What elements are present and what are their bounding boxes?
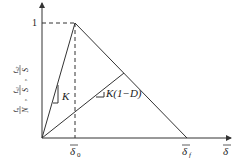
svg-text:,: ,	[19, 99, 28, 101]
svg-text:0: 0	[77, 151, 81, 159]
svg-text:S: S	[21, 88, 30, 92]
svg-text:S: S	[21, 68, 30, 72]
slope-label-k: K	[61, 90, 70, 102]
x-tick-delta0: δ 0	[70, 145, 81, 159]
svg-text:ts1: ts1	[11, 87, 20, 94]
slope-triangle-k	[53, 85, 58, 103]
svg-text:,: ,	[19, 79, 28, 81]
x-tick-deltaf: δ f	[182, 145, 192, 159]
y-axis-label: tn N , ts1 S , ts2 S	[11, 65, 30, 114]
svg-text:f: f	[189, 151, 192, 159]
traction-separation-diagram: 1 K K(1−D) δ 0 δ f δ tn N , ts1 S , ts2 …	[0, 0, 233, 164]
x-axis-label: δ	[223, 145, 231, 157]
y-tick-1: 1	[32, 17, 37, 28]
svg-text:tn: tn	[11, 107, 20, 112]
svg-text:δ: δ	[70, 145, 76, 157]
softening-line	[75, 23, 187, 138]
svg-text:δ: δ	[182, 145, 188, 157]
slope-label-kd: K(1−D)	[105, 87, 142, 100]
svg-text:ts2: ts2	[11, 66, 20, 73]
svg-text:N: N	[21, 107, 30, 114]
svg-text:δ: δ	[223, 145, 229, 157]
initial-stiffness-line	[42, 23, 75, 138]
damaged-stiffness-line	[42, 73, 124, 138]
